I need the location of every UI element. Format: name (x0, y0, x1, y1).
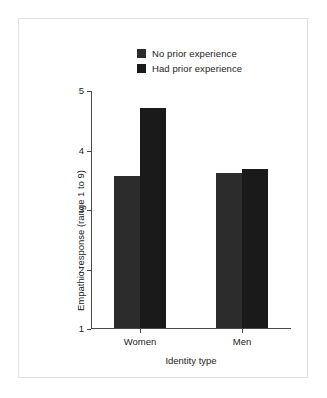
y-tick-mark (87, 91, 91, 92)
legend-swatch-icon-series-2 (137, 64, 146, 73)
bar-men-series-1 (216, 173, 242, 328)
y-tick-mark (87, 329, 91, 330)
plot-area: 12345 WomenMen (91, 91, 291, 329)
x-axis-title: Identity type (91, 355, 291, 366)
y-tick-mark (87, 151, 91, 152)
legend-label-series-2: Had prior experience (152, 63, 242, 74)
y-axis-line (91, 91, 92, 329)
legend-label-series-1: No prior experience (152, 48, 237, 59)
legend-swatch-icon-series-1 (137, 49, 146, 58)
chart-legend: No prior experience Had prior experience (137, 47, 242, 74)
y-tick-mark (87, 210, 91, 211)
bar-women-series-2 (140, 108, 166, 328)
y-tick-mark (87, 270, 91, 271)
y-axis-title: Empathic response (range 1 to 9) (75, 170, 86, 311)
bar-men-series-2 (242, 169, 268, 328)
x-axis-label-men: Men (233, 337, 251, 347)
legend-item-had-prior-experience: Had prior experience (137, 62, 242, 74)
figure-frame: No prior experience Had prior experience… (18, 18, 308, 378)
bar-women-series-1 (114, 176, 140, 328)
x-axis-label-women: Women (124, 337, 157, 347)
x-tick-mark-women (140, 329, 141, 333)
x-tick-mark-men (242, 329, 243, 333)
y-tick-label: 1 (79, 324, 84, 334)
legend-item-no-prior-experience: No prior experience (137, 47, 242, 59)
x-axis-line (91, 328, 291, 329)
y-tick-label: 4 (79, 146, 84, 156)
y-tick-label: 5 (79, 86, 84, 96)
